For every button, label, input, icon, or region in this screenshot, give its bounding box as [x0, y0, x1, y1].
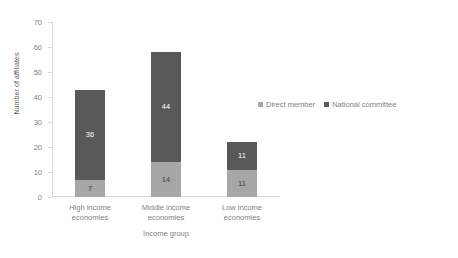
y-axis-tick-label: 20 — [34, 143, 42, 152]
y-axis-tick: 40 — [48, 97, 52, 98]
y-axis-tick-label: 10 — [34, 168, 42, 177]
y-axis-tick-label: 40 — [34, 93, 42, 102]
y-axis-tick-label: 30 — [34, 118, 42, 127]
y-axis-tick-label: 70 — [34, 18, 42, 27]
x-axis-title: Income group — [52, 229, 280, 238]
y-axis-title: Number of affiliates — [13, 34, 20, 134]
legend-swatch-icon — [258, 102, 263, 107]
y-axis-tick: 20 — [48, 147, 52, 148]
y-axis-tick-label: 0 — [38, 193, 42, 202]
y-axis-tick: 10 — [48, 172, 52, 173]
chart-legend: Direct memberNational committee — [258, 100, 396, 109]
bar-value-label: 11 — [238, 152, 246, 160]
y-axis-tick: 60 — [48, 47, 52, 48]
bar-segment[interactable]: 7 — [75, 180, 105, 198]
x-axis-category-label: High income economies — [52, 203, 128, 223]
y-axis-tick: 0 — [48, 197, 52, 198]
bar-value-label: 7 — [88, 185, 92, 193]
plot-area: 010203040506070 73614441111 — [52, 22, 280, 197]
legend-swatch-icon — [324, 102, 329, 107]
legend-label: National committee — [332, 100, 396, 109]
legend-label: Direct member — [266, 100, 315, 109]
y-axis-tick: 50 — [48, 72, 52, 73]
bar-group[interactable]: 1111 — [227, 142, 257, 197]
bar-segment[interactable]: 11 — [227, 142, 257, 170]
bar-group[interactable]: 736 — [75, 90, 105, 198]
y-axis-tick: 70 — [48, 22, 52, 23]
y-axis-tick: 30 — [48, 122, 52, 123]
x-axis-category-label: Middle income economies — [128, 203, 204, 223]
bar-group[interactable]: 1444 — [151, 52, 181, 197]
bar-value-label: 36 — [86, 131, 94, 139]
legend-item[interactable]: Direct member — [258, 100, 315, 109]
bar-value-label: 14 — [162, 176, 170, 184]
bar-segment[interactable]: 36 — [75, 90, 105, 180]
stacked-bar-chart: Number of affiliates 010203040506070 736… — [0, 0, 458, 258]
bar-value-label: 11 — [238, 180, 246, 188]
y-axis-tick-label: 60 — [34, 43, 42, 52]
x-axis-category-label: Low income economies — [204, 203, 280, 223]
bar-segment[interactable]: 11 — [227, 170, 257, 198]
bar-segment[interactable]: 44 — [151, 52, 181, 162]
legend-item[interactable]: National committee — [324, 100, 396, 109]
y-axis-tick-label: 50 — [34, 68, 42, 77]
y-axis-line — [52, 22, 53, 197]
bar-value-label: 44 — [162, 103, 170, 111]
bar-segment[interactable]: 14 — [151, 162, 181, 197]
